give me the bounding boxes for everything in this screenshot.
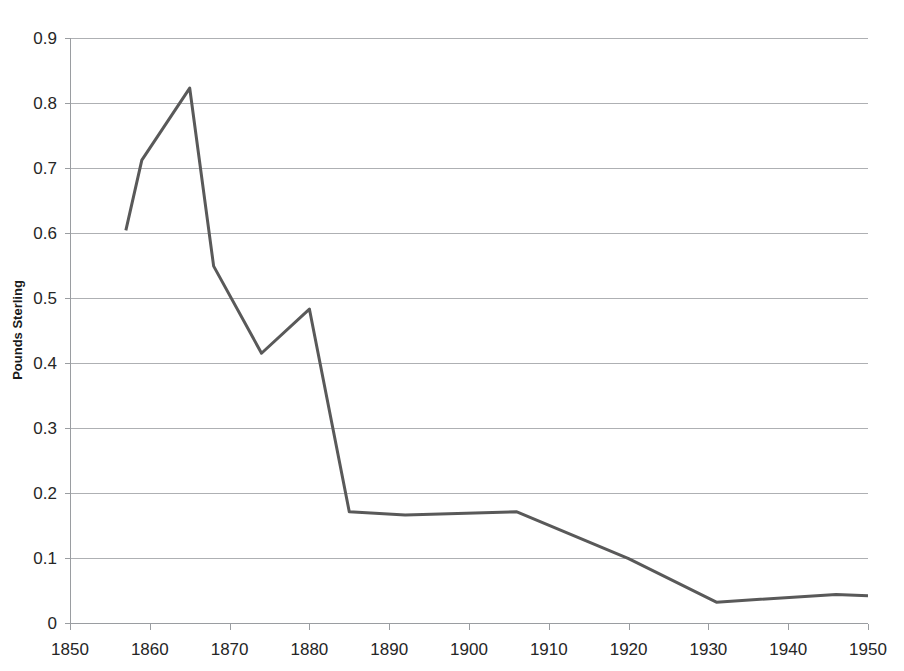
x-tick-label-1950: 1950 [849,640,887,659]
x-tick-labels-group: 1850186018701880189019001910192019301940… [51,640,887,659]
y-tick-label-0.8: 0.8 [33,94,57,113]
y-tick-label-0.3: 0.3 [33,419,57,438]
x-tick-label-1850: 1850 [51,640,89,659]
x-tick-label-1940: 1940 [769,640,807,659]
x-tick-label-1910: 1910 [530,640,568,659]
x-tick-label-1900: 1900 [450,640,488,659]
gridlines-group [70,39,868,624]
y-axis-group [65,38,71,624]
y-tick-label-0.7: 0.7 [33,159,57,178]
y-tick-label-0.1: 0.1 [33,549,57,568]
x-tick-label-1880: 1880 [290,640,328,659]
y-tick-label-0.2: 0.2 [33,484,57,503]
x-tick-label-1920: 1920 [610,640,648,659]
y-tick-labels-group: 00.10.20.30.40.50.60.70.80.9 [33,29,57,633]
x-tick-label-1890: 1890 [370,640,408,659]
series-line-0 [126,88,868,602]
x-tick-label-1930: 1930 [689,640,727,659]
y-tick-label-0.5: 0.5 [33,289,57,308]
y-tick-label-0: 0 [48,614,57,633]
x-tick-label-1860: 1860 [131,640,169,659]
y-tick-label-0.4: 0.4 [33,354,57,373]
line-chart: 00.10.20.30.40.50.60.70.80.9 18501860187… [0,0,904,671]
chart-canvas: 00.10.20.30.40.50.60.70.80.9 18501860187… [0,0,904,671]
y-axis-title: Pounds Sterling [10,280,25,380]
series-group [126,88,868,602]
x-axis-group [70,624,869,630]
y-tick-label-0.9: 0.9 [33,29,57,48]
y-tick-label-0.6: 0.6 [33,224,57,243]
x-tick-label-1870: 1870 [211,640,249,659]
